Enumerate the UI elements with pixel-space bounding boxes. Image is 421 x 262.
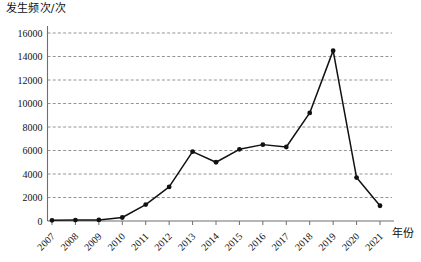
y-tick-label: 4000 [23, 169, 43, 180]
data-series [52, 51, 380, 221]
x-tick-label: 2008 [58, 231, 80, 253]
axes [48, 26, 395, 221]
data-point [214, 160, 219, 165]
y-tick-label: 10000 [18, 98, 43, 109]
x-tick-label: 2015 [222, 231, 244, 253]
x-axis-tick-labels: 2007200820092010201120122013201420152016… [35, 231, 385, 253]
x-tick-label: 2016 [246, 231, 268, 253]
data-point [96, 218, 101, 223]
y-tick-label: 16000 [18, 28, 43, 39]
y-tick-label: 0 [38, 216, 43, 227]
data-point [143, 202, 148, 207]
data-point [354, 175, 359, 180]
data-point [190, 149, 195, 154]
x-tick-label: 2007 [35, 231, 57, 253]
data-point [50, 218, 55, 223]
chart-canvas: 0200040006000800010000120001400016000 20… [0, 0, 421, 262]
x-tick-label: 2009 [82, 231, 104, 253]
line-chart: 发生频次/次 年份 020004000600080001000012000140… [0, 0, 421, 262]
data-point [307, 111, 312, 116]
x-tick-label: 2012 [152, 231, 174, 253]
data-point [120, 215, 125, 220]
x-tick-label: 2011 [129, 231, 151, 253]
y-tick-label: 12000 [18, 75, 43, 86]
series-polyline [52, 51, 380, 221]
data-point [167, 185, 172, 190]
x-tick-label: 2018 [293, 231, 315, 253]
x-tick-label: 2010 [105, 231, 127, 253]
data-point [378, 203, 383, 208]
x-tick-label: 2021 [363, 231, 385, 253]
data-point [331, 48, 336, 53]
y-tick-label: 14000 [18, 51, 43, 62]
x-tick-label: 2020 [340, 231, 362, 253]
data-markers [50, 48, 383, 222]
data-point [73, 218, 78, 223]
x-tick-label: 2014 [199, 231, 221, 253]
y-tick-label: 6000 [23, 145, 43, 156]
y-axis-title: 发生频次/次 [6, 2, 66, 16]
x-tick-label: 2019 [316, 231, 338, 253]
y-tick-label: 8000 [23, 122, 43, 133]
data-point [260, 142, 265, 147]
x-tick-label: 2017 [269, 231, 291, 253]
y-axis-tick-labels: 0200040006000800010000120001400016000 [18, 28, 43, 227]
data-point [237, 147, 242, 152]
gridlines [48, 33, 393, 198]
data-point [284, 145, 289, 150]
x-tick-label: 2013 [176, 231, 198, 253]
x-axis-title: 年份 [392, 227, 414, 241]
x-axis-ticks [52, 221, 380, 225]
y-tick-label: 2000 [23, 192, 43, 203]
